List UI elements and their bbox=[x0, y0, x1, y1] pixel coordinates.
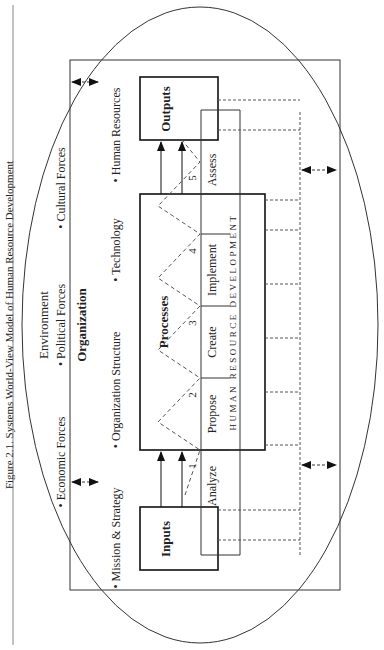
env-force-economic: • Economic Forces bbox=[54, 416, 68, 507]
processes-label: Processes bbox=[156, 296, 171, 348]
org-item-hr: • Human Resources bbox=[109, 87, 123, 182]
phase-num-2: 2 bbox=[186, 392, 198, 398]
org-item-technology: • Technology bbox=[109, 218, 123, 281]
org-item-structure: • Organization Structure bbox=[109, 332, 123, 449]
org-item-mission: • Mission & Strategy bbox=[109, 487, 123, 588]
env-force-cultural: • Cultural Forces bbox=[54, 147, 68, 229]
environment-title: Environment bbox=[36, 291, 51, 359]
env-force-political: • Political Forces bbox=[54, 284, 68, 367]
phase-implement: Implement bbox=[205, 243, 219, 296]
phase-assess: Assess bbox=[205, 153, 219, 186]
phase-propose: Propose bbox=[205, 395, 219, 434]
inputs-label: Inputs bbox=[158, 521, 173, 557]
organization-title: Organization bbox=[74, 287, 89, 361]
phase-num-1: 1 bbox=[186, 463, 198, 469]
phase-num-4: 4 bbox=[186, 248, 198, 254]
inputs-box bbox=[140, 507, 218, 570]
phase-create: Create bbox=[205, 326, 219, 357]
outputs-box bbox=[140, 77, 218, 140]
outputs-label: Outputs bbox=[158, 86, 173, 132]
phase-num-3: 3 bbox=[186, 320, 198, 326]
phase-analyze: Analyze bbox=[205, 466, 219, 506]
hrd-label: HUMAN RESOURCE DEVELOPMENT bbox=[228, 213, 238, 430]
phase-num-5: 5 bbox=[186, 175, 198, 181]
rotated-page: Figure 2.1. Systems World-View Model of … bbox=[0, 0, 384, 650]
